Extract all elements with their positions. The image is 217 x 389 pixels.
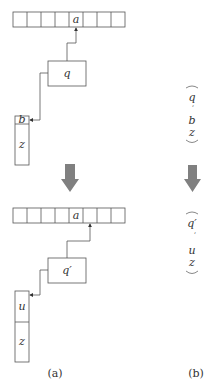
- head-pointer-after: [67, 224, 90, 258]
- caption-b: (b): [188, 367, 204, 380]
- state-label: q′: [62, 264, 72, 277]
- tape-after: a: [13, 208, 125, 223]
- comma: ,: [192, 100, 194, 108]
- tape-cell-symbol: a: [73, 13, 80, 26]
- stack-rest: z: [18, 335, 25, 348]
- transition-arrow-icon: [184, 165, 201, 192]
- tuple-before: q , b z: [186, 86, 198, 143]
- stack-top: b: [18, 113, 25, 126]
- state-label: q: [63, 67, 70, 80]
- comma: ,: [194, 227, 196, 235]
- stack-before: b z: [15, 113, 29, 165]
- transition-arrow-icon: [61, 164, 79, 192]
- tuple-stack-rest: z: [188, 256, 195, 269]
- stack-top: u: [18, 300, 25, 313]
- tuple-after: q′ , u z: [186, 212, 198, 274]
- stack-pointer-after: [30, 270, 48, 295]
- tuple-stack-rest: z: [188, 126, 195, 139]
- control-box-before: q: [48, 61, 86, 86]
- caption-a: (a): [47, 367, 62, 380]
- stack-after: u z: [15, 291, 29, 362]
- tape-before: a: [13, 12, 125, 27]
- head-pointer-before: [67, 28, 76, 61]
- control-box-after: q′: [48, 258, 86, 283]
- tape-cell-symbol: a: [73, 209, 80, 222]
- diagram: a q b z a q′ u z (a): [0, 0, 217, 389]
- stack-rest: z: [18, 138, 25, 151]
- stack-pointer-before: [30, 73, 48, 120]
